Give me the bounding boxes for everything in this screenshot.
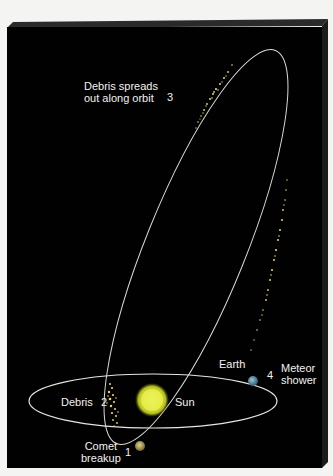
step-1-number: 1: [125, 446, 131, 458]
label-comet-line2: breakup: [81, 452, 121, 464]
label-debris-spreads-line2: out along orbit: [84, 92, 158, 104]
label-debris-spreads-line1: Debris spreads: [84, 80, 158, 92]
earth: [248, 376, 258, 386]
label-sun: Sun: [175, 396, 195, 408]
label-meteor-line1: Meteor: [281, 362, 316, 374]
label-comet-line1: Comet: [81, 440, 121, 452]
label-meteor-line2: shower: [281, 374, 316, 386]
comet: [135, 441, 145, 451]
label-comet-breakup: Comet breakup: [81, 440, 121, 464]
label-meteor-shower: Meteor shower: [281, 362, 316, 386]
step-3-number: 3: [167, 91, 173, 103]
label-earth: Earth: [219, 358, 245, 370]
label-debris: Debris: [61, 396, 93, 408]
label-debris-spreads: Debris spreads out along orbit: [84, 80, 158, 104]
step-4-number: 4: [267, 369, 273, 381]
diagram-canvas: [0, 0, 333, 476]
sun-core: [141, 389, 163, 411]
step-2-number: 2: [101, 396, 107, 408]
